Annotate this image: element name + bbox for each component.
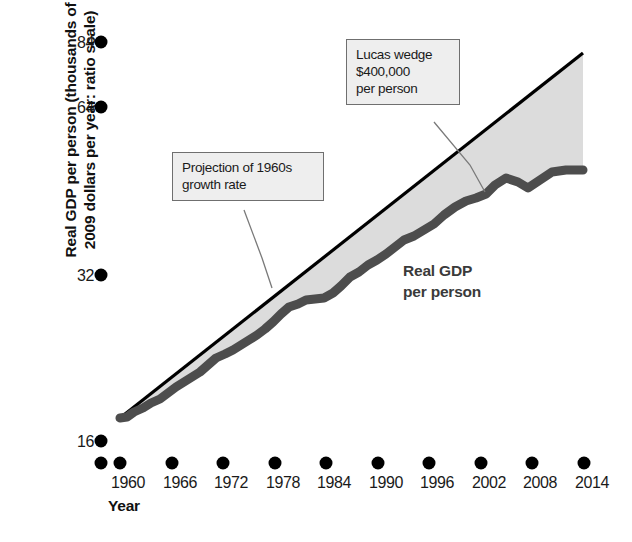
xtick-dot-2002 [475,457,488,470]
xtick-label-1984: 1984 [317,474,351,491]
xaxis-origin-dot [95,457,108,470]
projection-trend-line [120,53,583,418]
chart-canvas: 84 64 32 16 1960 1966 1972 1978 1984 199… [0,0,632,542]
xtick-label-1990: 1990 [369,474,403,491]
xtick-label-2002: 2002 [472,474,506,491]
ytick-dot-32 [95,269,108,282]
lucas-wedge-callout-box: Lucas wedge $400,000 per person [346,39,460,105]
ytick-label-84: 84 [77,34,94,51]
xtick-dot-1984 [320,457,333,470]
chart-root: 84 64 32 16 1960 1966 1972 1978 1984 199… [0,0,632,542]
xtick-label-1978: 1978 [266,474,300,491]
xtick-label-1960: 1960 [111,474,145,491]
xtick-dot-2014 [578,457,591,470]
xtick-label-1996: 1996 [420,474,454,491]
xtick-label-2014: 2014 [575,474,609,491]
ytick-label-16: 16 [77,433,94,450]
series-inline-label: Real GDP per person [403,260,481,302]
xtick-label-1972: 1972 [214,474,248,491]
ytick-dot-64 [95,101,108,114]
xtick-dot-2008 [526,457,539,470]
xtick-dot-1978 [269,457,282,470]
ytick-dot-16 [95,435,108,448]
xtick-dot-1966 [166,457,179,470]
xtick-dot-1960 [114,457,127,470]
gdp-per-person-curve [120,170,583,418]
xtick-dot-1996 [423,457,436,470]
projection-callout-leader [244,210,272,288]
x-axis-title: Year [108,497,140,515]
xtick-dot-1990 [372,457,385,470]
xtick-dot-1972 [217,457,230,470]
xtick-label-1966: 1966 [163,474,197,491]
projection-callout-box: Projection of 1960s growth rate [172,152,324,201]
ytick-label-32: 32 [77,267,94,284]
xtick-label-2008: 2008 [523,474,557,491]
ytick-dot-84 [95,36,108,49]
ytick-label-64: 64 [77,99,94,116]
